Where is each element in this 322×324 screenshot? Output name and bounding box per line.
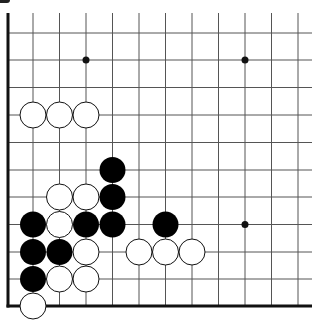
white-stone[interactable]	[73, 184, 99, 210]
black-stone[interactable]	[20, 212, 46, 238]
white-stone[interactable]	[47, 212, 73, 238]
white-stone[interactable]	[73, 239, 99, 265]
black-stone[interactable]	[153, 212, 179, 238]
white-stone[interactable]	[20, 293, 46, 319]
white-stone[interactable]	[20, 102, 46, 128]
white-stone[interactable]	[73, 266, 99, 292]
black-stone[interactable]	[47, 239, 73, 265]
star-point-icon	[242, 57, 249, 64]
white-stone[interactable]	[47, 102, 73, 128]
black-stone[interactable]	[73, 212, 99, 238]
star-point-icon	[242, 221, 249, 228]
white-stone[interactable]	[73, 102, 99, 128]
black-stone[interactable]	[20, 266, 46, 292]
black-stone[interactable]	[20, 239, 46, 265]
star-point-icon	[83, 57, 90, 64]
black-stone[interactable]	[100, 184, 126, 210]
white-stone[interactable]	[179, 239, 205, 265]
go-board[interactable]	[0, 0, 322, 324]
white-stone[interactable]	[47, 266, 73, 292]
black-stone[interactable]	[100, 157, 126, 183]
white-stone[interactable]	[47, 184, 73, 210]
black-stone[interactable]	[100, 212, 126, 238]
white-stone[interactable]	[126, 239, 152, 265]
white-stone[interactable]	[153, 239, 179, 265]
